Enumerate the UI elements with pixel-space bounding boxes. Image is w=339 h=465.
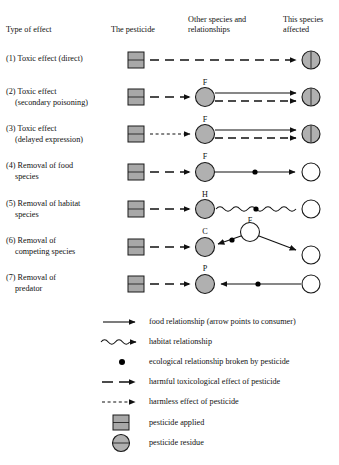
row-7-graphics <box>128 275 320 294</box>
broken-relationship-dot-row6 <box>229 237 234 242</box>
diagram-svg <box>0 0 339 465</box>
food-species-circle-row3 <box>196 125 215 144</box>
legend-text-food-relationship: food relationship (arrow points to consu… <box>149 317 296 327</box>
black-dot-icon <box>119 359 125 365</box>
legend-text-pesticide-residue: pesticide residue <box>149 438 204 448</box>
legend-text-pesticide-applied: pesticide applied <box>149 418 204 428</box>
legend-text-harmless-effect: harmless effect of pesticide <box>149 397 239 407</box>
row-6-graphics <box>128 223 320 265</box>
food-species-circle-row6 <box>241 223 260 242</box>
row-1-graphics <box>128 51 320 69</box>
legend-text-harmful-effect: harmful toxicological effect of pesticid… <box>149 377 280 387</box>
diagram-root: Type of effect The pesticide Other speci… <box>0 0 339 465</box>
broken-relationship-dot-row4 <box>252 169 257 174</box>
predator-circle-row7 <box>196 275 215 294</box>
row-4-graphics <box>128 163 320 182</box>
wavy-arrow-icon <box>101 340 130 345</box>
row-3-graphics <box>128 125 320 144</box>
row-5-graphics <box>128 200 320 219</box>
broken-relationship-dot-row7 <box>255 281 260 286</box>
food-species-circle-row2 <box>196 88 215 107</box>
row-2-graphics <box>128 88 320 107</box>
affected-species-circle-row5 <box>302 200 320 218</box>
affected-species-circle-row6 <box>302 246 320 264</box>
food-arrow-row6-right <box>259 236 296 250</box>
broken-relationship-dot-row5 <box>253 206 258 211</box>
legend-text-habitat-relationship: habitat relationship <box>149 337 212 347</box>
legend-symbols <box>101 322 136 452</box>
legend-text-broken-relationship: ecological relationship broken by pestic… <box>149 357 290 367</box>
food-species-circle-row4 <box>196 163 215 182</box>
affected-species-circle-row7 <box>302 275 320 293</box>
competing-species-circle-row6 <box>196 238 215 257</box>
affected-species-circle-row4 <box>302 163 320 181</box>
habitat-species-circle-row5 <box>196 200 215 219</box>
